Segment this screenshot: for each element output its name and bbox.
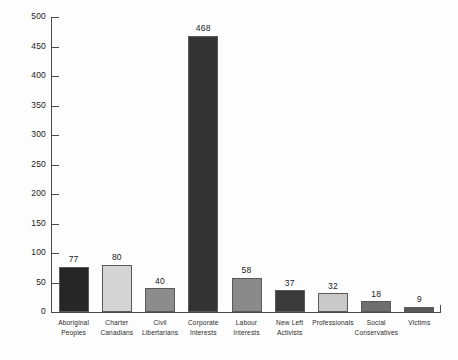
plot-area: 778040468583732189 [52, 17, 441, 312]
bar[interactable] [59, 267, 89, 312]
category-label-line: Labour [225, 318, 268, 328]
bar[interactable] [188, 36, 218, 312]
bar-chart: 500450400350300250200150100500 778040468… [0, 0, 458, 360]
y-axis-tick-label-text: 350 [16, 101, 46, 110]
y-axis-tick-label-text: 400 [16, 71, 46, 80]
bar-slot: 32 [318, 17, 348, 312]
y-axis-tick-label-text: 50 [16, 278, 46, 287]
category-label: Victims [398, 318, 441, 328]
category-label-line: Corporate [182, 318, 225, 328]
x-axis-line [51, 312, 441, 313]
bar-value-label: 80 [90, 253, 144, 262]
y-axis-tick-label: 300 [8, 130, 46, 140]
bar-slot: 37 [275, 17, 305, 312]
y-axis-tick-label: 100 [8, 248, 46, 258]
category-label-line: Interests [225, 328, 268, 338]
category-label-line: Conservatives [355, 328, 398, 338]
bar-slot: 9 [404, 17, 434, 312]
bar-slot: 18 [361, 17, 391, 312]
bar-slot: 77 [59, 17, 89, 312]
bar-slot: 468 [188, 17, 218, 312]
y-axis-tick-label-text: 0 [16, 307, 46, 316]
category-label: AboriginalPeoples [52, 318, 95, 337]
bar[interactable] [275, 290, 305, 312]
category-label: SocialConservatives [355, 318, 398, 337]
bar-value-label: 40 [133, 277, 187, 286]
category-label: LabourInterests [225, 318, 268, 337]
bar[interactable] [361, 301, 391, 312]
y-axis-tick-label: 200 [8, 189, 46, 199]
y-axis-tick-label-text: 300 [16, 130, 46, 139]
category-label-line: Victims [398, 318, 441, 328]
bar-value-label: 9 [392, 295, 446, 304]
category-label-line: Interests [182, 328, 225, 338]
category-label-line: Activists [268, 328, 311, 338]
bar[interactable] [318, 293, 348, 312]
bar-slot: 58 [232, 17, 262, 312]
category-label-line: Professionals [311, 318, 354, 328]
category-label: Professionals [311, 318, 354, 328]
y-axis-tick-label: 400 [8, 71, 46, 81]
category-label: CorporateInterests [182, 318, 225, 337]
bar[interactable] [232, 278, 262, 312]
y-axis-tick-label: 50 [8, 278, 46, 288]
y-axis-tick-label: 250 [8, 160, 46, 170]
bar-slot: 40 [145, 17, 175, 312]
y-axis-tick-label: 500 [8, 12, 46, 22]
category-label-line: Canadians [95, 328, 138, 338]
y-axis-tick-label-text: 250 [16, 160, 46, 169]
category-label-line: Aboriginal [52, 318, 95, 328]
bar-value-label: 58 [220, 266, 274, 275]
category-label-line: New Left [268, 318, 311, 328]
y-axis-tick-label-text: 150 [16, 219, 46, 228]
category-label-line: Charter [95, 318, 138, 328]
bar[interactable] [102, 265, 132, 312]
y-axis-tick-label-text: 500 [16, 12, 46, 21]
category-label-line: Libertarians [138, 328, 181, 338]
category-label-line: Social [355, 318, 398, 328]
y-axis-tick-label: 0 [8, 307, 46, 317]
y-axis-tick-label-text: 100 [16, 248, 46, 257]
bar-value-label: 468 [176, 24, 230, 33]
y-axis-tick-label-text: 200 [16, 189, 46, 198]
category-label: CivilLibertarians [138, 318, 181, 337]
bar[interactable] [145, 288, 175, 312]
y-axis-tick-label: 150 [8, 219, 46, 229]
bar-value-label: 32 [306, 282, 360, 291]
bar[interactable] [404, 307, 434, 312]
y-axis-tick-label: 450 [8, 42, 46, 52]
y-axis-tick-label-text: 450 [16, 42, 46, 51]
category-label-line: Peoples [52, 328, 95, 338]
category-label: New LeftActivists [268, 318, 311, 337]
category-label-line: Civil [138, 318, 181, 328]
bar-slot: 80 [102, 17, 132, 312]
category-label: CharterCanadians [95, 318, 138, 337]
y-axis-tick-label: 350 [8, 101, 46, 111]
